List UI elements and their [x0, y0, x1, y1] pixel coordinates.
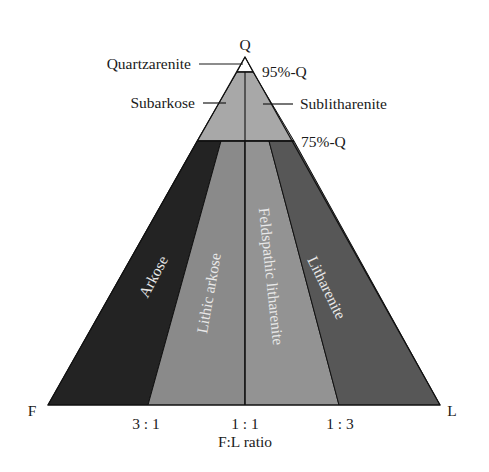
axis-label-fl-ratio: F:L ratio	[218, 433, 272, 450]
vertex-q-label: Q	[239, 36, 250, 53]
tick-1-1: 1 : 1	[231, 415, 259, 432]
label-sublitharenite: Sublitharenite	[300, 95, 387, 112]
label-95-q: 95%-Q	[262, 63, 307, 80]
label-75-q: 75%-Q	[301, 133, 346, 150]
vertex-f-label: F	[28, 402, 37, 419]
qfl-ternary-diagram: Q F L Quartzarenite 95%-Q Subarkose Subl…	[0, 0, 489, 472]
label-quartzarenite: Quartzarenite	[107, 55, 191, 72]
label-subarkose: Subarkose	[130, 94, 195, 111]
tick-3-1: 3 : 1	[132, 415, 160, 432]
vertex-l-label: L	[447, 402, 456, 419]
tick-1-3: 1 : 3	[326, 415, 354, 432]
